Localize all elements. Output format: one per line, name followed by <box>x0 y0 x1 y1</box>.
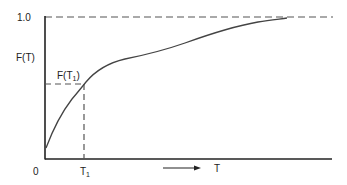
y-axis-label: F(T) <box>16 52 35 63</box>
f-t1-label: F(T1) <box>57 70 80 82</box>
right-arrow-icon <box>163 166 201 171</box>
origin-label: 0 <box>33 166 39 177</box>
x-axis-label: T <box>214 163 220 174</box>
cdf-curve <box>46 18 287 148</box>
cdf-diagram: 1.0 F(T) F(T1) 0 T1 T <box>0 0 347 185</box>
t1-label: T1 <box>80 166 90 178</box>
y-max-label: 1.0 <box>17 12 31 23</box>
